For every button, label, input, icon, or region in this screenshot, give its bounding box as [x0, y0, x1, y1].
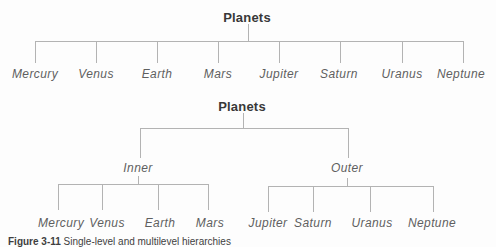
flat-leaf-label-earth: Earth [142, 67, 173, 81]
grouped-root-stem-line [243, 113, 244, 128]
flat-drop-line-neptune [463, 41, 464, 63]
group-label-outer: Outer [331, 161, 363, 175]
figure-caption-number: Figure 3-11 [8, 236, 61, 247]
grouped-leaf-label-mars: Mars [196, 216, 224, 230]
grouped-leaf-label-mercury: Mercury [38, 216, 84, 230]
inner-drop-line-venus [102, 184, 103, 210]
flat-drop-line-jupiter [279, 41, 280, 63]
grouped-tree-root-label: Planets [218, 99, 266, 114]
grouped-leaf-label-earth: Earth [145, 216, 176, 230]
figure-caption: Figure 3-11 Single-level and multilevel … [8, 236, 231, 247]
flat-drop-line-mercury [35, 41, 36, 63]
flat-drop-line-venus [96, 41, 97, 63]
outer-bar-line [268, 186, 434, 187]
flat-leaf-label-mars: Mars [204, 67, 232, 81]
grouped-leaf-label-saturn: Saturn [294, 216, 332, 230]
flat-leaf-label-saturn: Saturn [320, 67, 358, 81]
outer-drop-line-uranus [370, 186, 371, 212]
flat-leaf-label-neptune: Neptune [437, 67, 485, 81]
group-label-inner: Inner [123, 161, 152, 175]
flat-leaf-label-uranus: Uranus [381, 67, 422, 81]
outer-stem-line [347, 178, 348, 186]
outer-drop-line-jupiter [268, 186, 269, 212]
flat-drop-line-mars [218, 41, 219, 63]
grouped-leaf-label-neptune: Neptune [408, 216, 456, 230]
flat-drop-line-uranus [402, 41, 403, 63]
grouped-leaf-label-uranus: Uranus [351, 216, 392, 230]
flat-leaf-label-jupiter: Jupiter [260, 67, 299, 81]
inner-drop-line-earth [158, 184, 159, 210]
flat-branch-bar-line [35, 41, 464, 42]
flat-drop-line-saturn [340, 41, 341, 63]
grouped-drop-line-outer [348, 128, 349, 158]
figure-caption-text: Single-level and multilevel hierarchies [64, 236, 231, 247]
flat-drop-line-earth [157, 41, 158, 63]
flat-root-stem-line [248, 24, 249, 41]
inner-drop-line-mercury [58, 184, 59, 210]
inner-drop-line-mars [208, 184, 209, 210]
grouped-leaf-label-jupiter: Jupiter [249, 216, 288, 230]
grouped-branch-bar-line [140, 128, 349, 129]
flat-leaf-label-venus: Venus [78, 67, 114, 81]
outer-drop-line-neptune [433, 186, 434, 212]
grouped-drop-line-inner [140, 128, 141, 158]
flat-tree-root-label: Planets [223, 10, 271, 25]
inner-stem-line [138, 176, 139, 184]
outer-drop-line-saturn [313, 186, 314, 212]
grouped-leaf-label-venus: Venus [89, 216, 125, 230]
flat-leaf-label-mercury: Mercury [12, 67, 58, 81]
inner-bar-line [58, 184, 209, 185]
